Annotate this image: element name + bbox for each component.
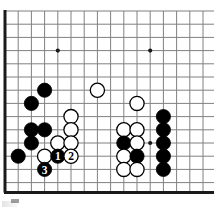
star-point <box>56 49 60 53</box>
caption-fragment-mark <box>11 199 19 203</box>
stone-white[interactable] <box>117 149 131 163</box>
white-stone[interactable] <box>117 123 131 137</box>
black-stone[interactable] <box>156 149 170 163</box>
stone-black[interactable] <box>24 136 38 150</box>
white-stone[interactable] <box>64 123 78 137</box>
stone-black[interactable] <box>24 96 38 110</box>
black-stone[interactable] <box>38 83 52 97</box>
star-point <box>148 49 152 53</box>
white-stone[interactable] <box>64 110 78 124</box>
stone-black-1[interactable]: 1 <box>51 149 65 163</box>
black-stone[interactable] <box>24 123 38 137</box>
stone-black-3[interactable]: 3 <box>38 162 52 176</box>
stone-white[interactable] <box>64 110 78 124</box>
star-point <box>148 141 152 145</box>
stone-black[interactable] <box>156 110 170 124</box>
white-stone[interactable] <box>51 136 65 150</box>
black-stone[interactable] <box>24 96 38 110</box>
stone-black[interactable] <box>38 123 52 137</box>
stone-white[interactable] <box>117 123 131 137</box>
stone-black[interactable] <box>11 149 25 163</box>
stone-black[interactable] <box>156 162 170 176</box>
stone-white[interactable] <box>130 123 144 137</box>
black-stone[interactable] <box>117 136 131 150</box>
stone-white[interactable] <box>117 162 131 176</box>
stone-white[interactable] <box>64 136 78 150</box>
stone-white[interactable] <box>130 136 144 150</box>
white-stone[interactable] <box>64 136 78 150</box>
black-stone[interactable] <box>156 110 170 124</box>
stone-black[interactable] <box>38 83 52 97</box>
stone-white[interactable] <box>64 123 78 137</box>
white-stone[interactable] <box>130 96 144 110</box>
stone-white[interactable] <box>51 136 65 150</box>
stone-black[interactable] <box>156 136 170 150</box>
black-stone[interactable] <box>11 149 25 163</box>
white-stone[interactable] <box>130 136 144 150</box>
black-stone[interactable] <box>130 149 144 163</box>
go-board[interactable]: 123 <box>0 0 216 210</box>
white-stone[interactable] <box>130 123 144 137</box>
stone-white[interactable] <box>38 149 52 163</box>
white-stone[interactable] <box>117 162 131 176</box>
black-stone[interactable] <box>24 136 38 150</box>
black-stone[interactable] <box>156 162 170 176</box>
go-diagram: 123 <box>0 0 216 210</box>
stone-white[interactable] <box>130 162 144 176</box>
black-stone[interactable] <box>156 123 170 137</box>
white-stone[interactable] <box>90 83 104 97</box>
move-number-label: 2 <box>68 150 74 162</box>
black-stone[interactable] <box>38 123 52 137</box>
white-stone[interactable] <box>117 149 131 163</box>
stone-white[interactable] <box>130 96 144 110</box>
stone-black[interactable] <box>156 123 170 137</box>
white-stone[interactable] <box>130 162 144 176</box>
move-number-label: 1 <box>55 150 61 162</box>
white-stone[interactable] <box>38 149 52 163</box>
stone-white-2[interactable]: 2 <box>64 149 78 163</box>
stone-black[interactable] <box>130 149 144 163</box>
stone-black[interactable] <box>156 149 170 163</box>
stone-white[interactable] <box>90 83 104 97</box>
move-number-label: 3 <box>42 164 48 176</box>
stone-black[interactable] <box>24 123 38 137</box>
black-stone[interactable] <box>156 136 170 150</box>
stone-black[interactable] <box>117 136 131 150</box>
